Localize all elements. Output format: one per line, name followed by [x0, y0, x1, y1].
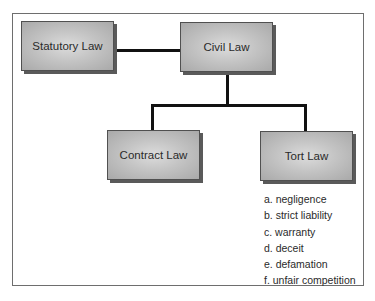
connector-horizontal-branch: [151, 104, 307, 107]
connector-civil-down: [226, 72, 229, 107]
node-label: Statutory Law: [32, 40, 102, 52]
node-label: Contract Law: [120, 149, 188, 161]
connector-to-contract: [151, 104, 154, 131]
list-item: a. negligence: [264, 191, 356, 207]
node-civil-law: Civil Law: [180, 22, 273, 72]
node-tort-law: Tort Law: [260, 131, 353, 181]
node-label: Tort Law: [285, 150, 328, 162]
node-contract-law: Contract Law: [107, 130, 200, 180]
list-item: b. strict liability: [264, 207, 356, 223]
node-label: Civil Law: [203, 41, 249, 53]
tort-law-list: a. negligence b. strict liability c. war…: [264, 191, 356, 289]
list-item: c. warranty: [264, 224, 356, 240]
node-statutory-law: Statutory Law: [21, 21, 114, 71]
connector-to-tort: [304, 104, 307, 132]
connector-statutory-civil: [114, 49, 180, 52]
list-item: e. defamation: [264, 256, 356, 272]
list-item: f. unfair competition: [264, 272, 356, 288]
list-item: d. deceit: [264, 240, 356, 256]
